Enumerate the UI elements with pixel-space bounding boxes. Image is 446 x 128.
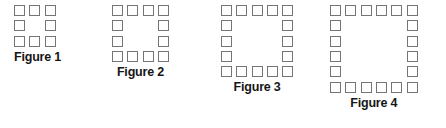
pattern-square (221, 36, 232, 47)
pattern-square (45, 5, 56, 16)
pattern-square (376, 5, 387, 16)
square-grid-2 (112, 5, 169, 62)
pattern-square (407, 82, 418, 93)
pattern-square (29, 36, 40, 47)
pattern-square (127, 51, 138, 62)
pattern-square (252, 5, 263, 16)
pattern-square (221, 5, 232, 16)
pattern-square (330, 66, 341, 77)
pattern-square (143, 51, 154, 62)
pattern-square (391, 5, 402, 16)
pattern-square (330, 20, 341, 31)
pattern-square (252, 66, 263, 77)
figure-caption-3: Figure 3 (221, 81, 293, 94)
figure-group-2: Figure 2 (112, 5, 169, 62)
pattern-square (282, 36, 293, 47)
pattern-square (407, 36, 418, 47)
pattern-square (267, 5, 278, 16)
square-grid-1 (14, 5, 56, 47)
pattern-square (221, 51, 232, 62)
pattern-square (236, 5, 247, 16)
pattern-square (361, 5, 372, 16)
figure-sequence-panel: Figure 1 Figure 2 Figure 3 Figure 4 (0, 0, 446, 128)
pattern-square (236, 66, 247, 77)
pattern-square (407, 66, 418, 77)
square-grid-4 (330, 5, 418, 93)
figure-group-1: Figure 1 (14, 5, 56, 47)
pattern-square (267, 66, 278, 77)
pattern-square (330, 5, 341, 16)
square-grid-3 (221, 5, 293, 77)
pattern-square (330, 36, 341, 47)
pattern-square (282, 66, 293, 77)
pattern-square (158, 51, 169, 62)
pattern-square (345, 82, 356, 93)
pattern-square (330, 51, 341, 62)
pattern-square (391, 82, 402, 93)
pattern-square (45, 36, 56, 47)
pattern-square (376, 82, 387, 93)
pattern-square (45, 20, 56, 31)
figure-group-4: Figure 4 (330, 5, 418, 93)
pattern-square (330, 82, 341, 93)
pattern-square (127, 5, 138, 16)
pattern-square (14, 20, 25, 31)
pattern-square (29, 5, 40, 16)
pattern-square (112, 36, 123, 47)
pattern-square (282, 51, 293, 62)
pattern-square (282, 20, 293, 31)
pattern-square (158, 5, 169, 16)
pattern-square (14, 36, 25, 47)
pattern-square (361, 82, 372, 93)
pattern-square (221, 20, 232, 31)
pattern-square (14, 5, 25, 16)
pattern-square (112, 20, 123, 31)
pattern-square (112, 51, 123, 62)
figure-group-3: Figure 3 (221, 5, 293, 77)
figure-caption-2: Figure 2 (112, 66, 169, 79)
figure-caption-1: Figure 1 (14, 51, 56, 64)
pattern-square (112, 5, 123, 16)
pattern-square (345, 5, 356, 16)
pattern-square (158, 20, 169, 31)
pattern-square (221, 66, 232, 77)
pattern-square (407, 20, 418, 31)
figure-caption-4: Figure 4 (330, 97, 418, 110)
pattern-square (407, 5, 418, 16)
pattern-square (407, 51, 418, 62)
pattern-square (158, 36, 169, 47)
pattern-square (282, 5, 293, 16)
pattern-square (143, 5, 154, 16)
